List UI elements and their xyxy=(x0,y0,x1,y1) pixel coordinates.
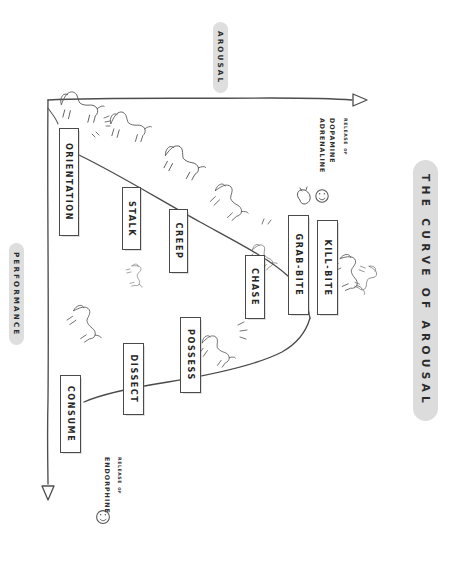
dog-sketch-possess xyxy=(195,332,239,371)
annotation-release-word-2: RELEASE xyxy=(117,457,122,484)
stage-label-kill-bite: KILL-BITE xyxy=(323,239,333,296)
stage-label-creep: CREEP xyxy=(174,223,184,260)
annotation-of-word: OF xyxy=(343,148,348,155)
stage-label-consume: CONSUME xyxy=(66,386,76,442)
dog-sketch-resting xyxy=(124,263,147,291)
prey-sketch xyxy=(297,187,310,204)
dog-sketch-orientation-b xyxy=(107,110,153,143)
curve-ascending-limb xyxy=(79,155,310,318)
stage-label-possess: POSSESS xyxy=(186,329,196,381)
dog-sketch-stalk xyxy=(159,142,209,183)
dog-sketch-orientation-a xyxy=(58,90,105,124)
stage-box-orientation[interactable]: ORIENTATION xyxy=(59,128,79,236)
smiley-icon-dopamine xyxy=(316,190,328,202)
arousal-curve-figure xyxy=(0,0,464,563)
stage-box-creep[interactable]: CREEP xyxy=(169,209,188,273)
page-title: THE CURVE OF AROUSAL xyxy=(413,160,438,421)
annotation-release-word: RELEASE xyxy=(343,118,348,145)
annotation-adrenaline: ADRENALINE xyxy=(319,118,325,173)
stage-box-stalk[interactable]: STALK xyxy=(122,187,141,250)
annotation-endorphine: ENDORPHINE xyxy=(104,457,110,514)
annotation-dopamine: DOPAMINE xyxy=(329,118,335,164)
stage-box-grab-bite[interactable]: GRAB-BITE xyxy=(288,215,309,315)
stage-box-dissect[interactable]: DISSECT xyxy=(123,343,144,415)
arousal-axis-label: AROUSAL xyxy=(213,22,228,93)
stage-box-possess[interactable]: POSSESS xyxy=(180,317,201,393)
stage-box-chase[interactable]: CHASE xyxy=(245,255,265,319)
stage-label-stalk: STALK xyxy=(127,200,137,236)
dog-sketch-dissect xyxy=(63,302,108,349)
annotation-endorphine-release-line1: RELEASE OF xyxy=(116,457,123,494)
arousal-axis-arrowhead xyxy=(353,94,367,106)
stage-box-kill-bite[interactable]: KILL-BITE xyxy=(317,220,338,315)
annotation-dopamine-release-line1: RELEASE OF xyxy=(342,118,349,155)
performance-axis-arrowhead xyxy=(42,486,54,500)
stage-box-consume[interactable]: CONSUME xyxy=(60,375,81,453)
performance-axis-label: PERFORMANCE xyxy=(9,243,24,345)
annotation-of-word-2: OF xyxy=(117,487,122,494)
stage-label-orientation: ORIENTATION xyxy=(64,143,74,221)
stage-label-dissect: DISSECT xyxy=(129,355,139,404)
stage-label-grab-bite: GRAB-BITE xyxy=(294,234,304,297)
stage-label-chase: CHASE xyxy=(250,268,260,306)
dog-sketch-creep xyxy=(206,180,254,226)
performance-axis xyxy=(48,100,49,484)
arousal-axis xyxy=(48,98,352,100)
